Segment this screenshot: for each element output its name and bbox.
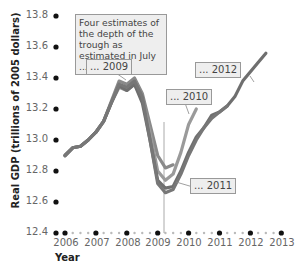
x-tick-label: 2007 (82, 237, 112, 248)
x-tick-label: 2006 (51, 237, 81, 248)
series-label-2011: ... 2011 (190, 178, 236, 194)
y-tick-label: 12.4 (8, 226, 48, 237)
series-label-2009: ... 2009 (86, 59, 132, 75)
series-line-2009 (65, 78, 173, 168)
x-tick-label: 2011 (205, 237, 235, 248)
x-tick-label: 2013 (267, 237, 297, 248)
x-tick-label: 2009 (143, 237, 173, 248)
x-tick-label: 2012 (236, 237, 266, 248)
series-label-2010: ... 2010 (166, 89, 212, 105)
x-tick-label: 2008 (113, 237, 143, 248)
y-axis-title: Real GDP (trillions of 2005 dollars) (10, 59, 21, 209)
x-tick-label: 2010 (174, 237, 204, 248)
series-label-2012: ... 2012 (195, 62, 241, 78)
x-axis-title: Year (55, 252, 80, 263)
